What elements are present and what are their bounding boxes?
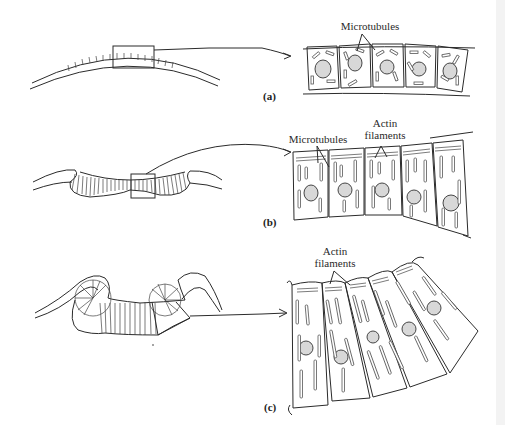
panel-c-overview bbox=[35, 273, 287, 346]
panel-label-b: (b) bbox=[263, 216, 276, 228]
panel-label-c: (c) bbox=[264, 401, 276, 413]
panel-b-overview bbox=[33, 144, 291, 198]
label-actin-b: Actin filaments bbox=[360, 117, 410, 141]
panel-b-detail bbox=[293, 132, 473, 238]
label-microtubules-b: Microtubules bbox=[278, 133, 358, 145]
zoom-box-a bbox=[113, 46, 154, 68]
panel-a-overview bbox=[30, 46, 291, 89]
panel-c-detail bbox=[287, 257, 478, 415]
diagram-drawing bbox=[0, 0, 505, 425]
panel-label-a: (a) bbox=[263, 90, 276, 102]
label-actin-c: Actin filaments bbox=[310, 245, 360, 269]
neurulation-diagram: Microtubules (a) Actin Actin filaments M… bbox=[0, 0, 505, 425]
label-microtubules-a: Microtubules bbox=[330, 20, 410, 32]
panel-a-detail bbox=[303, 34, 475, 96]
